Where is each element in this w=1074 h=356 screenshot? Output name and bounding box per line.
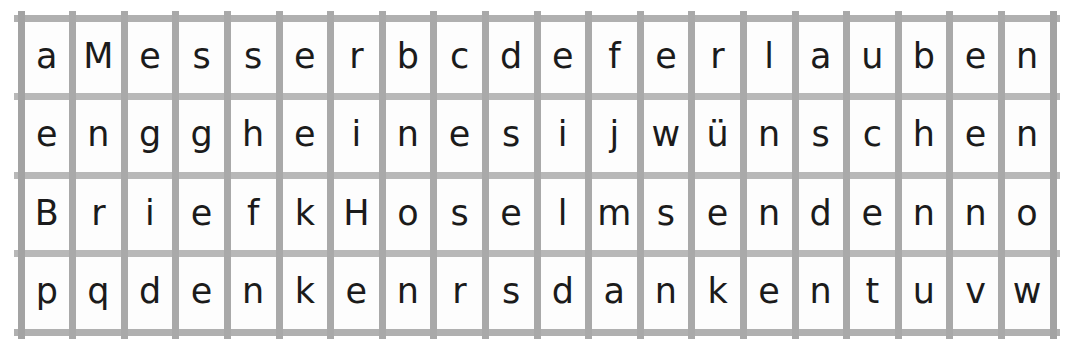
grid-cell[interactable]: s <box>795 97 847 176</box>
grid-cell[interactable]: a <box>589 254 641 333</box>
cell-letter: B <box>35 196 59 231</box>
grid-cell[interactable]: r <box>331 18 383 97</box>
grid-cell[interactable]: e <box>485 175 537 254</box>
grid-cell[interactable]: n <box>640 254 692 333</box>
grid-cell[interactable]: e <box>279 97 331 176</box>
grid-cell[interactable]: h <box>898 97 950 176</box>
grid-cell[interactable]: w <box>1001 254 1053 333</box>
grid-cell[interactable]: ü <box>692 97 744 176</box>
grid-cell[interactable]: e <box>950 97 1002 176</box>
cell-letter: c <box>450 39 469 74</box>
grid-cell[interactable]: k <box>279 175 331 254</box>
cell-letter: M <box>83 39 113 74</box>
grid-cell[interactable]: a <box>21 18 73 97</box>
grid-cell[interactable]: d <box>795 175 847 254</box>
grid-cell[interactable]: r <box>73 175 125 254</box>
grid-cell[interactable]: i <box>124 175 176 254</box>
grid-cell[interactable]: m <box>589 175 641 254</box>
grid-cell[interactable]: s <box>176 18 228 97</box>
grid-cell[interactable]: f <box>227 175 279 254</box>
grid-cell[interactable]: g <box>124 97 176 176</box>
grid-cell[interactable]: b <box>382 18 434 97</box>
grid-cell[interactable]: h <box>227 97 279 176</box>
grid-cell[interactable]: t <box>847 254 899 333</box>
grid-cell[interactable]: g <box>176 97 228 176</box>
grid-cell[interactable]: p <box>21 254 73 333</box>
grid-cell[interactable]: i <box>537 97 589 176</box>
grid-cell[interactable]: n <box>1001 97 1053 176</box>
grid-cell[interactable]: i <box>331 97 383 176</box>
grid-cell[interactable]: a <box>795 18 847 97</box>
grid-cell[interactable]: n <box>950 175 1002 254</box>
cell-letter: r <box>710 39 724 74</box>
grid-cell[interactable]: l <box>537 175 589 254</box>
grid-cell[interactable]: n <box>898 175 950 254</box>
grid-cell[interactable]: H <box>331 175 383 254</box>
grid-cell[interactable]: k <box>279 254 331 333</box>
grid-cell[interactable]: r <box>692 18 744 97</box>
grid-cell[interactable]: q <box>73 254 125 333</box>
grid-cell[interactable]: n <box>795 254 847 333</box>
grid-cell[interactable]: M <box>73 18 125 97</box>
cell-letter: u <box>913 274 935 309</box>
cell-letter: e <box>552 39 574 74</box>
grid-cell[interactable]: s <box>640 175 692 254</box>
grid-cell[interactable]: l <box>743 18 795 97</box>
grid-cell[interactable]: v <box>950 254 1002 333</box>
grid-cell[interactable]: e <box>21 97 73 176</box>
grid-cell[interactable]: e <box>537 18 589 97</box>
grid-cell[interactable]: e <box>692 175 744 254</box>
cell-letter: l <box>558 196 568 231</box>
grid-cell[interactable]: s <box>434 175 486 254</box>
grid-line-vertical <box>18 11 25 339</box>
letter-grid[interactable]: aMesserbcdeferlauben enggheinesijwünsche… <box>21 18 1053 332</box>
grid-cell[interactable]: e <box>434 97 486 176</box>
grid-cell[interactable]: f <box>589 18 641 97</box>
grid-cell[interactable]: n <box>743 97 795 176</box>
grid-cell[interactable]: k <box>692 254 744 333</box>
grid-cell[interactable]: s <box>227 18 279 97</box>
grid-cell[interactable]: b <box>898 18 950 97</box>
grid-line-vertical <box>998 11 1005 339</box>
grid-cell[interactable]: e <box>176 175 228 254</box>
grid-cell[interactable]: d <box>537 254 589 333</box>
grid-line-vertical <box>843 11 850 339</box>
grid-cell[interactable]: s <box>485 97 537 176</box>
grid-cell[interactable]: e <box>279 18 331 97</box>
grid-cell[interactable]: u <box>898 254 950 333</box>
grid-cell[interactable]: n <box>382 254 434 333</box>
grid-cell[interactable]: c <box>434 18 486 97</box>
grid-cell[interactable]: e <box>331 254 383 333</box>
grid-cell[interactable]: r <box>434 254 486 333</box>
grid-cell[interactable]: n <box>1001 18 1053 97</box>
grid-cell[interactable]: n <box>227 254 279 333</box>
cell-letter: g <box>190 117 212 152</box>
cell-letter: n <box>758 196 780 231</box>
grid-cell[interactable]: o <box>382 175 434 254</box>
grid-cell[interactable]: e <box>640 18 692 97</box>
grid-cell[interactable]: s <box>485 254 537 333</box>
cell-letter: s <box>657 196 675 231</box>
grid-cell[interactable]: e <box>743 254 795 333</box>
cell-letter: e <box>346 274 368 309</box>
cell-letter: i <box>145 196 155 231</box>
grid-line-vertical <box>740 11 747 339</box>
grid-cell[interactable]: w <box>640 97 692 176</box>
grid-cell[interactable]: n <box>73 97 125 176</box>
grid-cell[interactable]: c <box>847 97 899 176</box>
grid-cell[interactable]: o <box>1001 175 1053 254</box>
grid-cell[interactable]: d <box>124 254 176 333</box>
grid-cell[interactable]: e <box>950 18 1002 97</box>
grid-cell[interactable]: e <box>124 18 176 97</box>
grid-cell[interactable]: n <box>382 97 434 176</box>
grid-cell[interactable]: j <box>589 97 641 176</box>
grid-line-vertical <box>121 11 128 339</box>
grid-cell[interactable]: n <box>743 175 795 254</box>
grid-cell[interactable]: u <box>847 18 899 97</box>
cell-letter: n <box>87 117 109 152</box>
cell-letter: u <box>861 39 883 74</box>
grid-cell[interactable]: e <box>847 175 899 254</box>
grid-cell[interactable]: B <box>21 175 73 254</box>
grid-cell[interactable]: d <box>485 18 537 97</box>
grid-cell[interactable]: e <box>176 254 228 333</box>
